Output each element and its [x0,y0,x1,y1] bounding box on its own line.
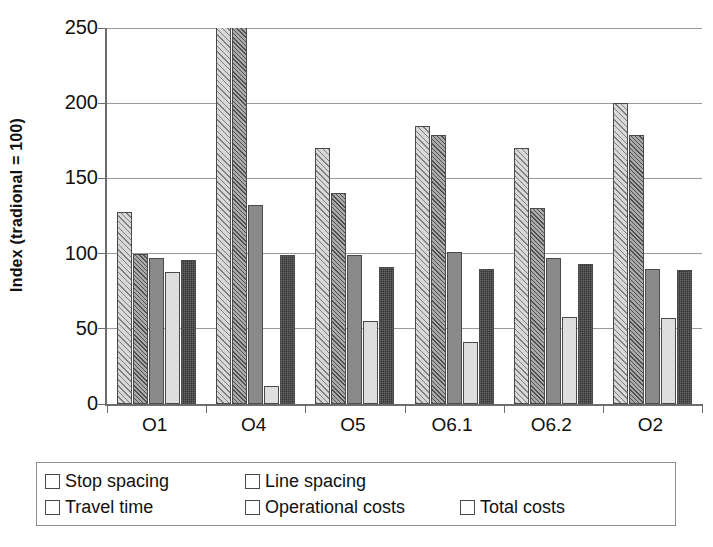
x-tick-mark-O5 [305,404,306,413]
x-tick-mark-end [702,404,703,413]
bar-chart-figure: Index (tradional = 100) 250200150100500 … [0,0,713,547]
bar-O6.1-total-costs [479,269,494,404]
bar-O2-line-spacing [629,135,644,404]
bar-O1-stop-spacing [117,212,132,405]
legend-item-stop-spacing[interactable]: Stop spacing [45,468,245,494]
y-axis-title-text: Index (tradional = 100) [8,118,26,292]
bar-group-O6.1 [415,28,495,404]
bar-O4-operational-costs [264,386,279,404]
bar-O2-travel-time [645,269,660,404]
y-tick-mark-0 [98,404,107,405]
legend-item-line-spacing[interactable]: Line spacing [245,468,366,494]
y-tick-mark-100 [98,253,107,254]
bar-group-O5 [315,28,395,404]
bar-O6.2-total-costs [578,264,593,404]
bar-O4-total-costs [280,255,295,404]
legend-swatch-stop-spacing-icon [45,474,60,489]
legend-swatch-travel-time-icon [45,500,60,515]
x-axis-label-O6.2: O6.2 [502,414,601,436]
bar-O6.1-line-spacing [431,135,446,404]
x-tick-mark-O6.1 [405,404,406,413]
x-tick-mark-O6.2 [504,404,505,413]
bar-O1-operational-costs [165,272,180,404]
legend-row-top: Stop spacing Line spacing [45,468,675,494]
bar-O2-operational-costs [661,318,676,404]
x-tick-mark-O2 [603,404,604,413]
bar-O5-total-costs [379,267,394,404]
bar-O6.2-travel-time [546,258,561,404]
bar-O1-travel-time [149,258,164,404]
bar-O1-line-spacing [133,254,148,404]
bar-group-O2 [613,28,693,404]
bar-O5-travel-time [347,255,362,404]
legend-label-travel-time: Travel time [65,497,153,517]
bar-group-O6.2 [514,28,594,404]
legend-swatch-operational-costs-icon [245,500,260,515]
x-axis-label-O5: O5 [303,414,402,436]
bar-O1-total-costs [181,260,196,404]
y-tick-label-200: 200 [36,92,98,112]
bar-O6.2-stop-spacing [514,148,529,404]
bar-O5-operational-costs [363,321,378,404]
y-tick-label-100: 100 [36,243,98,263]
y-tick-label-150: 150 [36,167,98,187]
y-tick-label-250: 250 [36,17,98,37]
bar-O6.2-operational-costs [562,317,577,404]
bar-O2-total-costs [677,270,692,404]
bar-group-O1 [117,28,197,404]
clipped-caption-strip [0,537,713,547]
legend-item-travel-time[interactable]: Travel time [45,494,245,520]
bar-O5-line-spacing [331,193,346,404]
bar-O2-stop-spacing [613,103,628,404]
bar-O6.1-stop-spacing [415,126,430,404]
legend-label-line-spacing: Line spacing [265,471,366,491]
legend-label-operational-costs: Operational costs [265,497,405,517]
y-tick-label-0: 0 [36,393,98,413]
y-tick-label-50: 50 [36,318,98,338]
bar-O5-stop-spacing [315,148,330,404]
y-tick-mark-250 [98,28,107,29]
legend-row-bottom: Travel time Operational costs Total cost… [45,494,675,520]
x-axis-label-O2: O2 [601,414,700,436]
bar-O4-stop-spacing [216,28,231,404]
legend-swatch-total-costs-icon [460,500,475,515]
y-axis-title: Index (tradional = 100) [0,0,34,410]
legend-item-total-costs[interactable]: Total costs [460,494,565,520]
plot-area [105,28,702,406]
x-tick-mark-O4 [206,404,207,413]
chart-legend: Stop spacing Line spacing Travel time Op… [36,462,676,526]
bar-O6.1-travel-time [447,252,462,404]
bar-O6.1-operational-costs [463,342,478,404]
legend-label-stop-spacing: Stop spacing [65,471,169,491]
legend-label-total-costs: Total costs [480,497,565,517]
y-tick-mark-200 [98,103,107,104]
x-tick-mark-O1 [107,404,108,413]
legend-item-operational-costs[interactable]: Operational costs [245,494,460,520]
y-axis-tick-labels: 250200150100500 [34,0,98,420]
x-axis-label-O6.1: O6.1 [403,414,502,436]
y-tick-mark-50 [98,328,107,329]
y-tick-mark-150 [98,178,107,179]
x-axis-label-O4: O4 [204,414,303,436]
x-axis-label-O1: O1 [105,414,204,436]
bar-O4-line-spacing [232,28,247,404]
bar-O6.2-line-spacing [530,208,545,404]
bar-O4-travel-time [248,205,263,404]
bar-group-O4 [216,28,296,404]
legend-swatch-line-spacing-icon [245,474,260,489]
